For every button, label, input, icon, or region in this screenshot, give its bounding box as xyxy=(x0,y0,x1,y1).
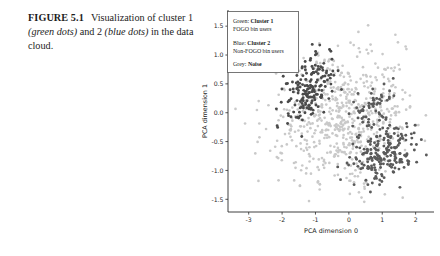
scatter-point xyxy=(347,88,350,91)
scatter-point xyxy=(298,111,301,114)
scatter-point xyxy=(317,109,320,112)
scatter-point xyxy=(375,135,378,138)
scatter-point xyxy=(363,200,366,203)
scatter-point xyxy=(373,147,376,150)
scatter-point xyxy=(333,174,336,177)
scatter-point xyxy=(349,136,352,139)
scatter-point xyxy=(314,64,317,67)
scatter-point xyxy=(321,75,324,78)
scatter-point xyxy=(336,102,339,105)
scatter-point xyxy=(286,122,289,125)
scatter-point xyxy=(301,164,304,167)
scatter-point xyxy=(371,112,374,115)
scatter-point xyxy=(316,166,319,169)
scatter-point xyxy=(317,158,320,161)
scatter-point xyxy=(331,109,334,112)
scatter-point xyxy=(376,131,379,134)
scatter-point xyxy=(344,91,347,94)
scatter-point xyxy=(401,196,404,199)
scatter-point xyxy=(372,120,375,123)
scatter-point xyxy=(359,141,362,144)
scatter-point xyxy=(280,145,283,148)
scatter-point xyxy=(362,130,365,133)
scatter-point xyxy=(355,158,358,161)
scatter-point xyxy=(279,152,282,155)
scatter-point xyxy=(320,96,323,99)
x-tick-label: 0 xyxy=(347,216,351,223)
scatter-point xyxy=(325,103,328,106)
scatter-point xyxy=(399,137,402,140)
scatter-point xyxy=(367,121,370,124)
scatter-point xyxy=(349,79,352,82)
scatter-point xyxy=(338,130,341,133)
scatter-point xyxy=(318,188,321,191)
scatter-point xyxy=(359,51,362,54)
scatter-point xyxy=(358,146,361,149)
scatter-point xyxy=(320,119,323,122)
scatter-point xyxy=(349,75,352,78)
scatter-point xyxy=(306,123,309,126)
scatter-point xyxy=(386,127,389,130)
scatter-point xyxy=(348,99,351,102)
scatter-point xyxy=(320,84,323,87)
scatter-point xyxy=(316,93,319,96)
scatter-point xyxy=(391,107,394,110)
scatter-point xyxy=(314,53,317,56)
scatter-point xyxy=(398,186,401,189)
scatter-point xyxy=(394,86,397,89)
scatter-point xyxy=(367,128,370,131)
scatter-point xyxy=(300,169,303,172)
scatter-point xyxy=(357,116,360,119)
y-tick-label: -0.5 xyxy=(211,138,223,145)
scatter-point xyxy=(370,50,373,53)
y-tick-label: 0.5 xyxy=(214,80,224,87)
scatter-point xyxy=(398,111,401,114)
scatter-point xyxy=(267,104,270,107)
scatter-point xyxy=(310,172,313,175)
scatter-point xyxy=(347,126,350,129)
scatter-point xyxy=(380,109,383,112)
scatter-point xyxy=(374,152,377,155)
scatter-point xyxy=(322,164,325,167)
scatter-point xyxy=(269,149,272,152)
scatter-point xyxy=(388,124,391,127)
scatter-point xyxy=(369,43,372,46)
scatter-point xyxy=(377,125,380,128)
scatter-point xyxy=(348,142,351,145)
scatter-point xyxy=(355,88,358,91)
scatter-point xyxy=(350,88,353,91)
scatter-point xyxy=(351,125,354,128)
scatter-point xyxy=(404,149,407,152)
scatter-point xyxy=(301,93,304,96)
y-tick-label: 1.0 xyxy=(214,51,224,58)
scatter-point xyxy=(275,156,278,159)
scatter-point xyxy=(376,172,379,175)
scatter-point xyxy=(275,107,278,110)
scatter-point xyxy=(339,94,342,97)
scatter-point xyxy=(388,142,391,145)
scatter-point xyxy=(346,162,349,165)
scatter-point xyxy=(390,114,393,117)
scatter-point xyxy=(351,158,354,161)
scatter-point xyxy=(346,93,349,96)
scatter-point xyxy=(293,179,296,182)
scatter-point xyxy=(301,102,304,105)
scatter-point xyxy=(380,173,383,176)
scatter-point xyxy=(318,89,321,92)
scatter-point xyxy=(335,126,338,129)
scatter-point xyxy=(331,58,334,61)
scatter-point xyxy=(323,116,326,119)
scatter-point xyxy=(389,121,392,124)
scatter-point xyxy=(392,94,395,97)
scatter-point xyxy=(349,173,352,176)
scatter-point xyxy=(362,66,365,69)
scatter-point xyxy=(359,167,362,170)
scatter-point xyxy=(383,193,386,196)
scatter-point xyxy=(308,160,311,163)
scatter-point xyxy=(386,108,389,111)
x-tick-label: 1 xyxy=(380,216,384,223)
scatter-point xyxy=(326,93,329,96)
scatter-point xyxy=(378,119,381,122)
scatter-point xyxy=(319,131,322,134)
scatter-point xyxy=(329,68,332,71)
